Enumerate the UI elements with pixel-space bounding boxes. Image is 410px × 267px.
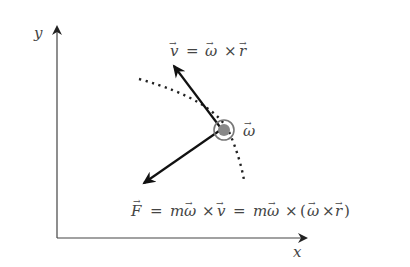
y-axis-label: y xyxy=(33,24,43,42)
svg-text:→: → xyxy=(169,38,177,48)
svg-text:→: → xyxy=(244,118,252,128)
particle xyxy=(214,120,234,140)
svg-text:m: m xyxy=(253,202,267,220)
svg-text:(: ( xyxy=(300,202,306,220)
svg-text:): ) xyxy=(344,202,350,220)
svg-text:→: → xyxy=(239,38,247,48)
svg-text:=: = xyxy=(186,42,199,60)
omega-label: ω → xyxy=(243,118,255,140)
svg-text:×: × xyxy=(202,202,215,220)
svg-text:→: → xyxy=(216,198,224,208)
svg-text:→: → xyxy=(308,198,316,208)
svg-text:=: = xyxy=(150,202,163,220)
force-equation: F → = m ω → × v → = m ω → × ( ω → × r → … xyxy=(130,196,350,220)
svg-text:→: → xyxy=(335,198,343,208)
svg-text:×: × xyxy=(285,202,298,220)
velocity-equation: v → = ω → × r → xyxy=(169,38,247,60)
svg-text:×: × xyxy=(322,202,335,220)
svg-text:×: × xyxy=(224,42,237,60)
svg-text:m: m xyxy=(170,202,184,220)
svg-text:→: → xyxy=(133,196,141,206)
svg-text:→: → xyxy=(268,198,276,208)
diagram-canvas: y x ω → v → = ω → × r → F → = m ω → × v … xyxy=(0,0,410,267)
velocity-vector xyxy=(174,66,220,127)
svg-text:→: → xyxy=(206,38,214,48)
svg-text:→: → xyxy=(185,198,193,208)
force-vector xyxy=(144,131,219,183)
x-axis-label: x xyxy=(293,243,302,261)
svg-text:=: = xyxy=(233,202,246,220)
